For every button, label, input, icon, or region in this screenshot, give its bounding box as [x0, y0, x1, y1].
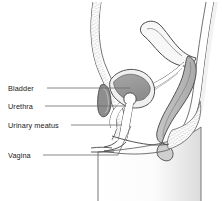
bladder-neck-lumen: [124, 93, 136, 105]
labels-group: Bladder Urethra Urinary meatus Vagina: [8, 84, 59, 160]
label-vagina: Vagina: [8, 151, 32, 160]
anatomy-diagram-svg: Bladder Urethra Urinary meatus Vagina: [0, 0, 222, 201]
label-bladder: Bladder: [8, 84, 34, 93]
labial-fold: [91, 147, 112, 148]
anatomy-figure: Bladder Urethra Urinary meatus Vagina: [0, 0, 222, 201]
label-urinary-meatus: Urinary meatus: [8, 121, 59, 130]
label-urethra: Urethra: [8, 102, 34, 111]
pubic-bone-group: [98, 84, 111, 116]
urinary-meatus-opening: [104, 141, 117, 147]
bladder-group: [110, 69, 155, 108]
